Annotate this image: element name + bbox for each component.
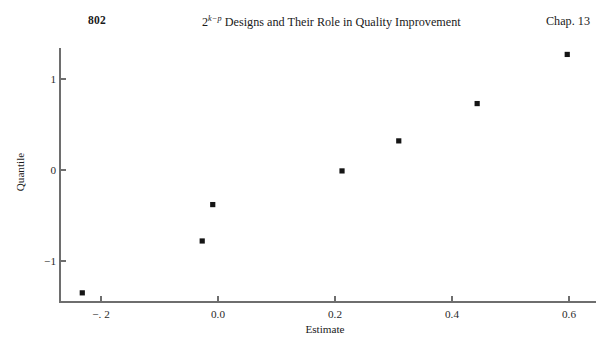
data-point-marker (210, 202, 215, 207)
axes (60, 48, 596, 302)
data-point-marker (339, 168, 344, 173)
data-point-marker (396, 138, 401, 143)
x-tick-label: −. 2 (92, 308, 110, 320)
x-tick-label: 0.4 (445, 308, 459, 320)
data-point-marker (565, 52, 570, 57)
axis-lines (60, 48, 596, 302)
data-point-marker (200, 238, 205, 243)
data-point-marker (80, 290, 85, 295)
y-axis-ticks (60, 79, 66, 261)
y-tick-label: −1 (38, 255, 56, 267)
y-tick-label: 1 (38, 73, 56, 85)
y-tick-label: 0 (38, 164, 56, 176)
x-tick-label: 0.6 (562, 308, 576, 320)
y-axis-title: Quantile (14, 153, 26, 192)
x-tick-label: 0.0 (211, 308, 225, 320)
quantile-plot-figure: −. 20.00.20.40.6 10−1 Estimate Quantile (0, 0, 604, 345)
x-axis-title: Estimate (305, 323, 344, 335)
plot-canvas (0, 0, 604, 345)
data-point-marker (475, 101, 480, 106)
data-points (80, 52, 570, 296)
x-axis-ticks (101, 296, 569, 302)
x-tick-label: 0.2 (328, 308, 342, 320)
